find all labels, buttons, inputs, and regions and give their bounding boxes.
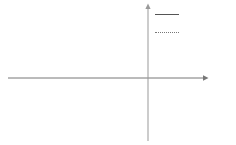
legend-sample-solid-icon [155,10,179,20]
legend-entry-re [155,6,235,24]
legend-sample-dotted-icon [155,28,179,38]
legend-label-im [187,28,191,39]
legend-label-re [187,10,191,21]
legend-entry-im [155,24,235,42]
wave-function-figure [0,0,236,145]
legend [155,6,235,42]
y-axis-arrowhead [145,4,150,10]
x-axis-arrowhead [203,75,209,81]
